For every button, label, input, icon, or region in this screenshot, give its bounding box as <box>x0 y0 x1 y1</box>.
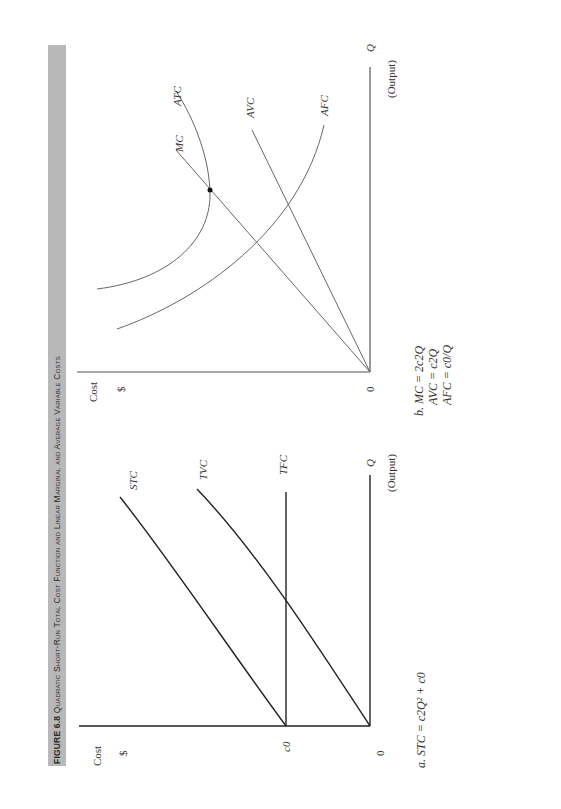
figure-canvas <box>0 0 561 809</box>
tfc-label: TFC <box>277 455 289 475</box>
afc-label: AFC <box>318 95 330 116</box>
afc-curve <box>117 125 324 329</box>
tvc-curve <box>197 489 370 726</box>
panel-b-q-label: Q <box>364 44 376 52</box>
mc-label: MC <box>173 136 185 153</box>
panel-b-cost-label: Cost <box>87 382 99 402</box>
panel-b-caption-line-3: AFC = c0/Q <box>440 345 455 405</box>
panel-a-origin-label: 0 <box>374 751 386 757</box>
panel-b-output-label: (Output) <box>385 60 397 98</box>
avc-label: AVC <box>244 98 256 118</box>
avc-curve <box>252 130 370 372</box>
stc-label: STC <box>127 471 139 490</box>
panel-b-dollar-label: $ <box>115 387 127 393</box>
tvc-label: TVC <box>197 460 209 480</box>
atc-label: ATC <box>171 86 183 106</box>
panel-b-origin-label: 0 <box>364 387 376 393</box>
panel-a-caption: a. STC = c2Q² + c0 <box>414 672 429 768</box>
atc-curve <box>97 91 210 289</box>
atc-minimum-point <box>208 188 213 193</box>
panel-a-q-label: Q <box>364 459 376 467</box>
stc-curve <box>120 497 286 726</box>
panel-a-cost-label: Cost <box>91 746 103 766</box>
panel-b-caption-line-1: b. MC = 2c2Q <box>412 346 427 416</box>
panel-a-chart <box>79 475 370 726</box>
c0-label: c0 <box>280 742 292 752</box>
panel-a-dollar-label: $ <box>117 751 129 757</box>
panel-a-output-label: (Output) <box>385 454 397 492</box>
panel-b-caption-line-2: AVC = c2Q <box>426 349 441 405</box>
mc-curve <box>176 150 370 372</box>
